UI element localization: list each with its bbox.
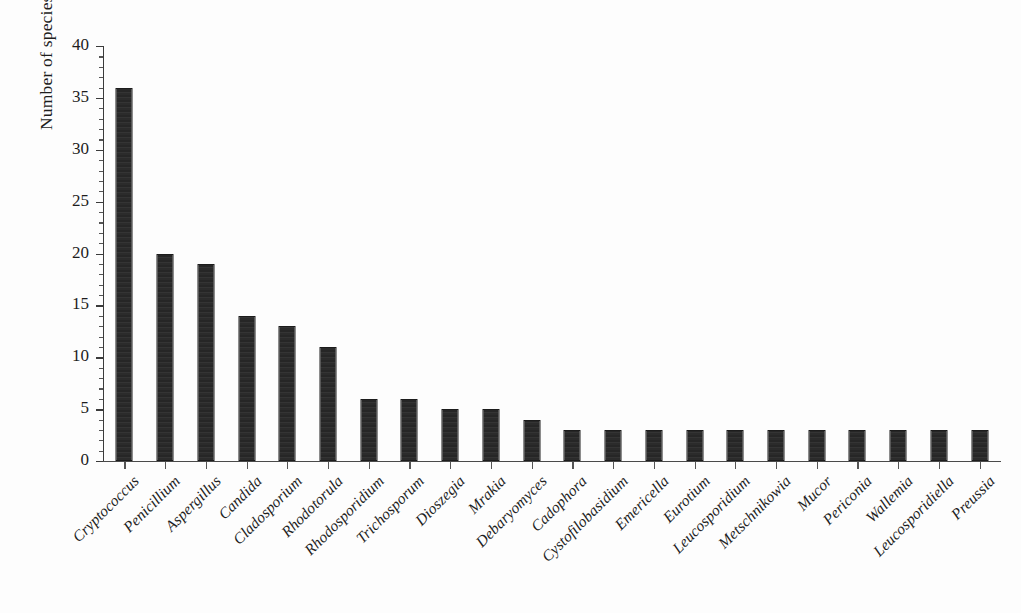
bar-slot [837, 46, 878, 461]
bar [319, 347, 336, 461]
tick-mark [99, 139, 103, 140]
tick-mark [99, 274, 103, 275]
bar-slot [552, 46, 593, 461]
bar [197, 264, 214, 461]
tick-mark [96, 98, 103, 99]
bar-slot [389, 46, 430, 461]
x-axis-tick [247, 462, 248, 469]
bar-slot [430, 46, 471, 461]
y-axis-title-text: Number of species [36, 0, 57, 130]
plot-area [104, 46, 1000, 461]
bar-chart: Number of species 0510152025303540 Crypt… [0, 0, 1021, 613]
x-axis-tick [695, 462, 696, 469]
x-axis-tick [450, 462, 451, 469]
x-axis-tick [206, 462, 207, 469]
y-axis-tick-label: 0 [49, 450, 89, 470]
tick-mark [99, 233, 103, 234]
x-axis-tick [572, 462, 573, 469]
bar [686, 430, 703, 461]
tick-mark [99, 337, 103, 338]
tick-mark [99, 420, 103, 421]
y-axis-tick-label: 5 [49, 398, 89, 418]
tick-mark [99, 440, 103, 441]
tick-mark [99, 295, 103, 296]
tick-mark [99, 77, 103, 78]
tick-mark [96, 202, 103, 203]
bar-slot [104, 46, 145, 461]
bar [808, 430, 825, 461]
x-axis-tick [287, 462, 288, 469]
y-axis-tick-label: 30 [49, 139, 89, 159]
tick-mark [99, 326, 103, 327]
y-axis-tick-label: 10 [49, 346, 89, 366]
tick-mark [96, 46, 103, 47]
tick-mark [99, 56, 103, 57]
bar [645, 430, 662, 461]
bar-slot [633, 46, 674, 461]
x-axis-tick [776, 462, 777, 469]
bar [157, 254, 174, 462]
bar [238, 316, 255, 461]
bar [605, 430, 622, 461]
bar [482, 409, 499, 461]
bar-slot [878, 46, 919, 461]
x-axis-tick-label: Metschnikowia [715, 472, 795, 552]
tick-mark [99, 108, 103, 109]
x-axis-tick [409, 462, 410, 469]
bar [401, 399, 418, 461]
bar-slot [471, 46, 512, 461]
bar [767, 430, 784, 461]
tick-mark [96, 357, 103, 358]
bar-slot [674, 46, 715, 461]
bar [360, 399, 377, 461]
tick-mark [99, 285, 103, 286]
tick-mark [99, 388, 103, 389]
tick-mark [99, 243, 103, 244]
bar [279, 326, 296, 461]
y-axis-tick-label: 25 [49, 191, 89, 211]
bar [849, 430, 866, 461]
y-axis-tick-label: 15 [49, 294, 89, 314]
x-axis-tick [165, 462, 166, 469]
bar-slot [919, 46, 960, 461]
x-axis-tick [328, 462, 329, 469]
tick-mark [99, 212, 103, 213]
x-axis-tick [939, 462, 940, 469]
tick-mark [99, 181, 103, 182]
x-axis-tick-label: Preussia [947, 472, 998, 523]
bar-slot [348, 46, 389, 461]
x-axis-tick [613, 462, 614, 469]
tick-mark [96, 254, 103, 255]
tick-mark [96, 150, 103, 151]
bar-slot [959, 46, 1000, 461]
bar [116, 88, 133, 462]
bar-slot [511, 46, 552, 461]
bar-slot [715, 46, 756, 461]
y-axis-tick-label: 40 [49, 35, 89, 55]
bar-slot [145, 46, 186, 461]
bar [727, 430, 744, 461]
x-axis-tick [654, 462, 655, 469]
bar [564, 430, 581, 461]
tick-mark [99, 67, 103, 68]
tick-mark [99, 378, 103, 379]
x-axis-tick [491, 462, 492, 469]
x-axis-tick [857, 462, 858, 469]
x-axis-line [103, 461, 1001, 462]
x-axis-tick [980, 462, 981, 469]
tick-mark [99, 368, 103, 369]
tick-mark [99, 264, 103, 265]
x-axis-tick [532, 462, 533, 469]
bar-slot [267, 46, 308, 461]
tick-mark [99, 222, 103, 223]
tick-mark [96, 305, 103, 306]
x-axis-tick [124, 462, 125, 469]
tick-mark [99, 129, 103, 130]
bar-slot [796, 46, 837, 461]
bar [442, 409, 459, 461]
y-axis-tick-label: 35 [49, 87, 89, 107]
x-axis-tick [817, 462, 818, 469]
bar-slot [185, 46, 226, 461]
tick-mark [99, 316, 103, 317]
tick-mark [96, 409, 103, 410]
